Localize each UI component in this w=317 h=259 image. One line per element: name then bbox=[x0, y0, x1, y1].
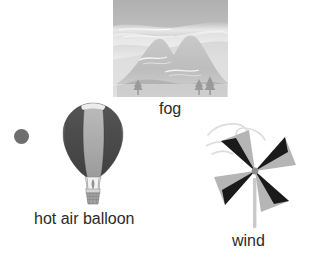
pinwheel-illustration bbox=[206, 118, 306, 230]
filled-circle-marker-icon bbox=[14, 129, 29, 144]
hot-air-balloon-illustration bbox=[60, 101, 126, 205]
label-wind: wind bbox=[232, 233, 265, 249]
foggy-mountain-scene-image bbox=[113, 0, 228, 97]
label-hot-air-balloon: hot air balloon bbox=[34, 211, 135, 227]
illustration-canvas: fog hot air balloon wind bbox=[0, 0, 317, 259]
label-fog: fog bbox=[159, 101, 181, 117]
